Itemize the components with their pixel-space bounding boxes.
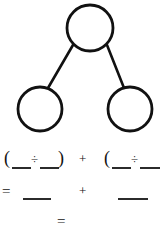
close-paren-left: ) (58, 146, 64, 170)
worksheet-page: ( ÷ ) + ( ÷ = + = (0, 0, 160, 232)
blank-divisor-right[interactable] (140, 167, 160, 169)
blank-dividend-left[interactable] (12, 167, 31, 169)
blank-divisor-left[interactable] (40, 167, 59, 169)
number-bond-diagram (0, 0, 160, 140)
blank-dividend-right[interactable] (112, 167, 131, 169)
equals-symbol-row3: = (57, 208, 65, 232)
left-part-circle[interactable] (18, 87, 62, 131)
open-paren-right: ( (104, 146, 110, 170)
blank-quotient-right[interactable] (118, 198, 148, 200)
blank-quotient-left[interactable] (23, 198, 51, 200)
edge-total-to-left (48, 45, 73, 88)
plus-symbol-row1: + (79, 146, 86, 172)
equals-symbol-row2: = (2, 178, 10, 204)
edge-total-to-right (107, 45, 124, 88)
factor-pairs-row: ( ÷ ) + ( ÷ (0, 146, 160, 172)
partial-quotients-row: = + (0, 178, 160, 204)
total-circle[interactable] (67, 5, 113, 51)
divide-symbol-right: ÷ (131, 146, 138, 172)
divide-symbol-left: ÷ (31, 146, 38, 172)
final-answer-row: = (0, 208, 160, 232)
right-part-circle[interactable] (108, 87, 152, 131)
open-paren-left: ( (4, 146, 10, 170)
plus-symbol-row2: + (79, 178, 86, 204)
